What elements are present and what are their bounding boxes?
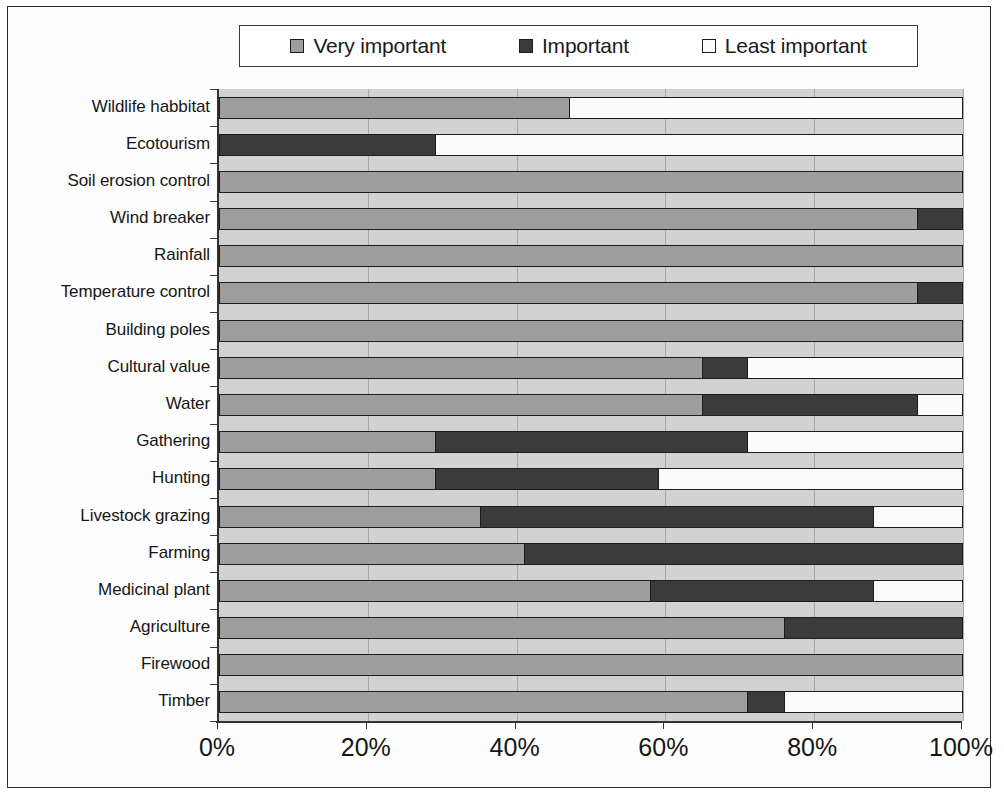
- x-axis-tick-label: 60%: [638, 733, 688, 762]
- bar-segment-important[interactable]: [524, 544, 962, 564]
- bar-segment-very-important[interactable]: [220, 692, 747, 712]
- bar-row: [219, 201, 963, 238]
- stacked-bar[interactable]: [219, 171, 963, 193]
- bar-row: [219, 647, 963, 684]
- bar-segment-very-important[interactable]: [220, 581, 650, 601]
- bar-segment-very-important[interactable]: [220, 618, 784, 638]
- bar-segment-least-important[interactable]: [747, 358, 962, 378]
- bar-segment-very-important[interactable]: [220, 321, 962, 341]
- x-axis-tick-label: 80%: [787, 733, 837, 762]
- y-axis-tick: [210, 312, 217, 313]
- y-axis-tick: [210, 424, 217, 425]
- bar-segment-least-important[interactable]: [658, 469, 962, 489]
- y-axis-tick: [210, 89, 217, 90]
- bar-segment-least-important[interactable]: [747, 432, 962, 452]
- y-axis-tick: [210, 461, 217, 462]
- stacked-bar[interactable]: [219, 654, 963, 676]
- bar-segment-important[interactable]: [480, 507, 873, 527]
- x-axis-tick: [663, 721, 664, 729]
- stacked-bar[interactable]: [219, 97, 963, 119]
- y-axis-label: Ecotourism: [126, 134, 210, 154]
- stacked-bar[interactable]: [219, 282, 963, 304]
- bar-segment-very-important[interactable]: [220, 358, 702, 378]
- bar-segment-important[interactable]: [917, 209, 962, 229]
- bar-segment-important[interactable]: [784, 618, 962, 638]
- bar-segment-least-important[interactable]: [873, 507, 962, 527]
- bar-segment-very-important[interactable]: [220, 98, 569, 118]
- legend-swatch-icon-very-important: [290, 39, 304, 53]
- y-axis-tick: [210, 386, 217, 387]
- stacked-bar[interactable]: [219, 320, 963, 342]
- y-axis-label: Farming: [148, 543, 210, 563]
- bar-segment-important[interactable]: [747, 692, 784, 712]
- bar-row: [219, 275, 963, 312]
- stacked-bar[interactable]: [219, 691, 963, 713]
- legend-item-very-important: Very important: [290, 34, 446, 58]
- y-axis-tick: [210, 647, 217, 648]
- y-axis-tick: [210, 163, 217, 164]
- bar-segment-very-important[interactable]: [220, 469, 435, 489]
- stacked-bar[interactable]: [219, 394, 963, 416]
- y-axis-tick: [210, 572, 217, 573]
- y-axis-label: Wind breaker: [110, 208, 210, 228]
- y-axis-tick: [210, 201, 217, 202]
- stacked-bar[interactable]: [219, 543, 963, 565]
- bar-segment-important[interactable]: [702, 395, 917, 415]
- bar-segment-important[interactable]: [917, 283, 962, 303]
- stacked-bar[interactable]: [219, 431, 963, 453]
- stacked-bar[interactable]: [219, 580, 963, 602]
- y-axis-label: Cultural value: [107, 357, 210, 377]
- legend-swatch-icon-important: [519, 39, 533, 53]
- bar-row: [219, 572, 963, 609]
- y-axis-label: Soil erosion control: [67, 171, 210, 191]
- bar-segment-least-important[interactable]: [873, 581, 962, 601]
- bar-segment-important[interactable]: [435, 432, 747, 452]
- chart-frame: Very important Important Least important…: [7, 6, 991, 788]
- y-axis-label: Building poles: [106, 320, 210, 340]
- bar-rows: [219, 89, 963, 721]
- bar-segment-very-important[interactable]: [220, 209, 917, 229]
- bar-row: [219, 126, 963, 163]
- legend-label-least-important: Least important: [725, 34, 867, 58]
- bar-segment-very-important[interactable]: [220, 655, 962, 675]
- stacked-bar[interactable]: [219, 245, 963, 267]
- stacked-bar[interactable]: [219, 208, 963, 230]
- bar-segment-least-important[interactable]: [784, 692, 962, 712]
- y-axis-tick: [210, 721, 217, 722]
- bar-segment-very-important[interactable]: [220, 507, 480, 527]
- bar-segment-very-important[interactable]: [220, 544, 524, 564]
- bar-segment-least-important[interactable]: [435, 135, 962, 155]
- x-axis-tick: [812, 721, 813, 729]
- x-axis-tick-label: 20%: [341, 733, 391, 762]
- bar-segment-very-important[interactable]: [220, 432, 435, 452]
- bar-segment-very-important[interactable]: [220, 246, 962, 266]
- chart-legend: Very important Important Least important: [239, 25, 918, 67]
- stacked-bar[interactable]: [219, 617, 963, 639]
- stacked-bar[interactable]: [219, 134, 963, 156]
- y-axis-label: Medicinal plant: [98, 580, 210, 600]
- bar-segment-important[interactable]: [220, 135, 435, 155]
- y-axis-tick: [210, 126, 217, 127]
- bar-segment-important[interactable]: [702, 358, 747, 378]
- x-axis-tick: [515, 721, 516, 729]
- bar-segment-very-important[interactable]: [220, 283, 917, 303]
- bar-row: [219, 89, 963, 126]
- bar-segment-very-important[interactable]: [220, 395, 702, 415]
- bar-row: [219, 684, 963, 721]
- y-axis-label: Rainfall: [154, 245, 210, 265]
- stacked-bar[interactable]: [219, 506, 963, 528]
- y-axis-tick: [210, 684, 217, 685]
- bar-segment-very-important[interactable]: [220, 172, 962, 192]
- bar-segment-important[interactable]: [435, 469, 658, 489]
- y-axis-label: Wildlife habbitat: [92, 97, 210, 117]
- bar-segment-least-important[interactable]: [917, 395, 962, 415]
- x-axis-tick-label: 40%: [490, 733, 540, 762]
- y-axis-tick: [210, 535, 217, 536]
- bar-segment-important[interactable]: [650, 581, 873, 601]
- stacked-bar[interactable]: [219, 357, 963, 379]
- bar-row: [219, 238, 963, 275]
- plot-area: [217, 89, 963, 721]
- bar-segment-least-important[interactable]: [569, 98, 962, 118]
- y-axis-tick: [210, 609, 217, 610]
- stacked-bar[interactable]: [219, 468, 963, 490]
